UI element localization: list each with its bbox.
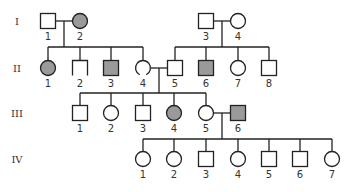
individual-number: 1 bbox=[45, 78, 51, 89]
female-symbol-II-7 bbox=[231, 61, 246, 76]
female-symbol-IV-7 bbox=[325, 152, 340, 167]
pedigree-canvas: IIIIIIIV1234123456781234561234567 bbox=[0, 0, 355, 192]
male-symbol-II-5 bbox=[168, 61, 183, 76]
male-symbol-IV-3 bbox=[199, 152, 214, 167]
individual-number: 2 bbox=[77, 31, 83, 42]
pedigree-diagram: IIIIIIIV1234123456781234561234567 bbox=[0, 0, 355, 192]
individual-number: 2 bbox=[77, 78, 83, 89]
individual-number: 8 bbox=[266, 78, 272, 89]
individual-number: 5 bbox=[203, 123, 209, 134]
open-female-symbol-II-4 bbox=[136, 61, 151, 75]
male-symbol-IV-6 bbox=[293, 152, 308, 167]
male-symbol-III-6 bbox=[231, 106, 246, 121]
male-symbol-II-6 bbox=[199, 61, 214, 76]
male-symbol-II-8 bbox=[262, 61, 277, 76]
male-symbol-III-3 bbox=[136, 106, 151, 121]
individual-number: 4 bbox=[235, 31, 241, 42]
partial-male-symbol-II-2 bbox=[73, 61, 88, 76]
individual-number: 3 bbox=[203, 31, 209, 42]
male-symbol-I-1 bbox=[41, 14, 56, 29]
individual-number: 4 bbox=[235, 169, 241, 180]
female-symbol-I-4 bbox=[231, 14, 246, 29]
female-symbol-III-2 bbox=[104, 106, 119, 121]
female-symbol-III-5 bbox=[199, 106, 214, 121]
generation-label: IV bbox=[11, 154, 23, 165]
individual-number: 3 bbox=[140, 123, 146, 134]
individual-number: 3 bbox=[108, 78, 114, 89]
male-symbol-III-1 bbox=[73, 106, 88, 121]
generation-label: II bbox=[13, 63, 21, 74]
individual-number: 4 bbox=[140, 78, 146, 89]
female-symbol-IV-2 bbox=[167, 152, 182, 167]
female-symbol-III-4 bbox=[167, 106, 182, 121]
male-symbol-I-3 bbox=[199, 14, 214, 29]
individual-number: 2 bbox=[171, 169, 177, 180]
individual-number: 1 bbox=[77, 123, 83, 134]
female-symbol-I-2 bbox=[73, 14, 88, 29]
female-symbol-II-1 bbox=[41, 61, 56, 76]
female-symbol-IV-1 bbox=[136, 152, 151, 167]
male-symbol-II-3 bbox=[104, 61, 119, 76]
individual-number: 1 bbox=[140, 169, 146, 180]
male-symbol-IV-5 bbox=[262, 152, 277, 167]
individual-number: 5 bbox=[172, 78, 178, 89]
individual-number: 7 bbox=[235, 78, 241, 89]
individual-number: 6 bbox=[297, 169, 303, 180]
individual-number: 4 bbox=[171, 123, 177, 134]
individual-number: 6 bbox=[235, 123, 241, 134]
individual-number: 3 bbox=[203, 169, 209, 180]
generation-label: I bbox=[15, 16, 19, 27]
generation-label: III bbox=[11, 108, 23, 119]
individual-number: 7 bbox=[329, 169, 335, 180]
individual-number: 5 bbox=[266, 169, 272, 180]
individual-number: 6 bbox=[203, 78, 209, 89]
individual-number: 2 bbox=[108, 123, 114, 134]
individual-number: 1 bbox=[45, 31, 51, 42]
female-symbol-IV-4 bbox=[231, 152, 246, 167]
